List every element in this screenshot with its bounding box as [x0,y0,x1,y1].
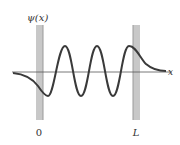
wavefunction-diagram: ψ(x) x 0 L [0,0,180,145]
left-boundary-label: 0 [36,127,42,138]
x-axis-label: x [168,67,173,77]
left-barrier [36,25,43,120]
right-barrier [133,25,140,120]
right-boundary-label: L [132,127,140,138]
y-axis-label: ψ(x) [27,12,48,23]
wavefunction-curve [13,46,166,96]
